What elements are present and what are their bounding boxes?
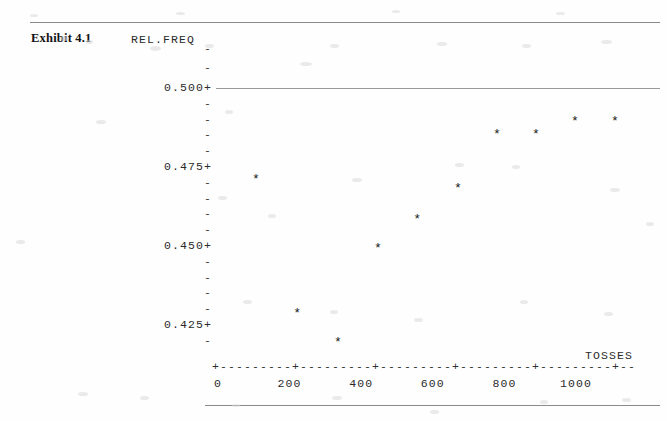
scan-speckle: [512, 165, 520, 169]
data-point: *: [571, 115, 579, 128]
x-axis-label: 1000: [560, 377, 592, 390]
scan-speckle: [330, 44, 339, 48]
scan-speckle: [352, 178, 362, 182]
scan-speckle: [520, 300, 528, 304]
scan-speckle: [601, 40, 612, 44]
scan-speckle: [556, 12, 565, 15]
scan-speckle: [430, 410, 439, 414]
y-axis-minor-tick: -: [100, 97, 212, 110]
scan-speckle: [392, 10, 400, 13]
scan-speckle: [610, 188, 620, 192]
y-axis-minor-tick: -: [100, 144, 212, 157]
data-point: *: [413, 212, 421, 225]
data-point: *: [493, 127, 501, 140]
scan-speckle: [330, 310, 338, 314]
scan-speckle: [225, 110, 233, 114]
x-axis-line: +---------+---------+---------+---------…: [212, 360, 636, 373]
scan-speckle: [622, 398, 631, 402]
scan-speckle: [16, 240, 25, 244]
y-axis-minor-tick: -: [100, 334, 212, 347]
y-axis-label: 0.425+: [100, 318, 212, 331]
y-axis-label: 0.450+: [100, 239, 212, 252]
y-axis-label: 0.500+: [100, 81, 212, 94]
y-axis-minor-tick: -: [100, 271, 212, 284]
y-axis-label: 0.475+: [100, 160, 212, 173]
scan-speckle: [218, 196, 227, 200]
scan-speckle: [60, 36, 69, 41]
y-axis-minor-tick: -: [100, 128, 212, 141]
scan-speckle: [604, 312, 613, 316]
y-axis-minor-tick: -: [100, 192, 212, 205]
ascii-scatter-plot: REL.FREQ TOSSES --0.500+----0.475+----0.…: [0, 0, 667, 421]
scan-speckle: [646, 222, 654, 226]
data-point: *: [611, 115, 619, 128]
scan-speckle: [522, 44, 531, 48]
y-axis-minor-tick: -: [100, 255, 212, 268]
scan-speckle: [86, 40, 93, 44]
y-axis-minor-tick: -: [100, 286, 212, 299]
y-axis-minor-tick: -: [100, 302, 212, 315]
scan-speckle: [268, 214, 276, 218]
scan-speckle: [437, 42, 447, 46]
exhibit-page: Exhibit 4.1 REL.FREQ TOSSES --0.500+----…: [0, 0, 667, 421]
scan-speckle: [455, 163, 464, 167]
y-axis-minor-tick: -: [100, 176, 212, 189]
y-axis-minor-tick: -: [100, 207, 212, 220]
scan-speckle: [243, 300, 252, 304]
data-point: *: [454, 181, 462, 194]
data-point: *: [293, 306, 301, 319]
x-axis-label: 0: [214, 377, 222, 390]
x-axis-label: 200: [278, 377, 302, 390]
x-axis-label: 800: [492, 377, 516, 390]
scan-speckle: [540, 400, 548, 404]
y-axis-minor-tick: -: [100, 42, 212, 55]
scan-speckle: [30, 14, 38, 17]
scan-speckle: [140, 396, 149, 400]
data-point: *: [532, 127, 540, 140]
data-point: *: [334, 336, 342, 349]
scan-speckle: [232, 404, 240, 407]
scan-speckle: [332, 396, 342, 400]
scan-speckle: [78, 392, 88, 396]
data-point: *: [374, 241, 382, 254]
scan-speckle: [300, 62, 312, 66]
y-axis-minor-tick: -: [100, 223, 212, 236]
scan-speckle: [414, 318, 423, 322]
y-axis-minor-tick: -: [100, 61, 212, 74]
scan-speckle: [176, 12, 185, 15]
data-point: *: [252, 173, 260, 186]
x-axis-label: 400: [349, 377, 373, 390]
y-axis-minor-tick: -: [100, 113, 212, 126]
x-axis-label: 600: [421, 377, 445, 390]
